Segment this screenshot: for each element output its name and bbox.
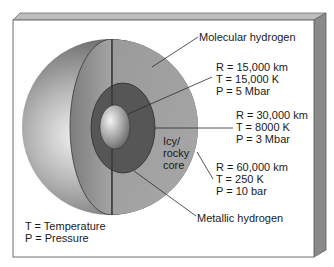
label-core-line-1: Icy/ (163, 135, 181, 147)
boundary-1-radius: R = 15,000 km (216, 61, 288, 73)
label-metallic-hydrogen: Metallic hydrogen (197, 212, 283, 224)
label-core-line-2: rocky (163, 147, 190, 159)
boundary-2-temperature: T = 8000 K (236, 121, 291, 133)
boundary-2-pressure: P = 3 Mbar (236, 133, 290, 145)
box-right-bevel (314, 13, 326, 257)
boundary-2-radius: R = 30,000 km (236, 109, 308, 121)
label-core-line-3: core (163, 159, 184, 171)
boundary-3-radius: R = 60,000 km (216, 161, 288, 173)
boundary-3-pressure: P = 10 bar (216, 185, 267, 197)
label-molecular-hydrogen: Molecular hydrogen (199, 31, 296, 43)
box-top-bevel (13, 13, 326, 20)
legend-pressure: P = Pressure (25, 232, 89, 244)
jupiter-interior-diagram: Molecular hydrogen R = 15,000 km T = 15,… (0, 0, 334, 267)
icy-rocky-core (100, 105, 130, 149)
legend-temperature: T = Temperature (25, 220, 106, 232)
boundary-1-pressure: P = 5 Mbar (216, 85, 270, 97)
boundary-1-temperature: T = 15,000 K (216, 73, 280, 85)
boundary-3-temperature: T = 250 K (216, 173, 264, 185)
